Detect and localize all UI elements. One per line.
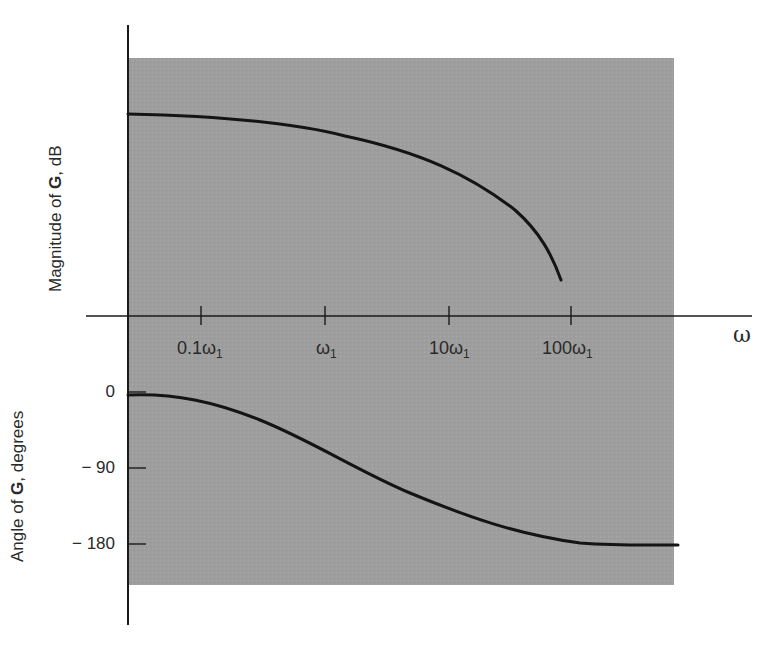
angle-tick-minus-180: − 180 (55, 534, 115, 554)
xtick-10-omega1: 10ω1 (429, 338, 470, 361)
angle-tick-minus-90: − 90 (55, 458, 115, 478)
xtick-0-1-omega1: 0.1ω1 (177, 338, 223, 361)
angle-axis-label: Angle of G, degrees (8, 411, 28, 562)
angle-tick-0: 0 (55, 382, 115, 402)
bode-plot: Magnitude of G, dB Angle of G, degrees 0… (0, 0, 784, 653)
xtick-omega1: ω1 (316, 338, 337, 361)
plot-canvas (0, 0, 784, 653)
magnitude-axis-label: Magnitude of G, dB (46, 146, 66, 293)
xtick-100-omega1: 100ω1 (542, 338, 593, 361)
omega-axis-label: ω (733, 322, 751, 347)
shaded-panel (128, 58, 674, 585)
